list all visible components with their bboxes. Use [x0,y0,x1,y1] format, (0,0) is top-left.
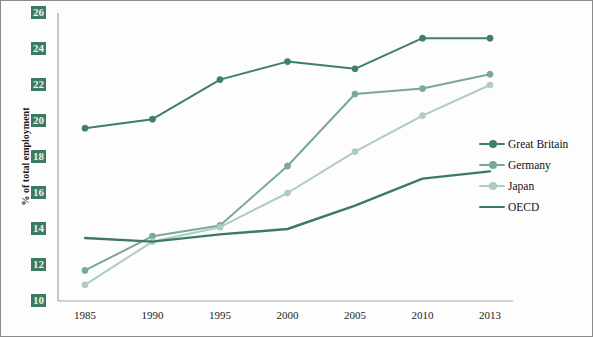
x-tick-1985: 1985 [65,309,105,321]
x-tick-1995: 1995 [200,309,240,321]
x-tick-2005: 2005 [335,309,375,321]
y-tick-10: 10 [31,294,46,307]
y-tick-16: 16 [31,186,46,199]
plot-area: % of total employment 101214161820222426… [1,1,593,337]
series-germany [82,71,493,273]
legend-label: Great Britain [508,138,568,150]
legend-swatch-icon [479,180,505,192]
x-tick-2000: 2000 [268,309,308,321]
legend-swatch-icon [479,201,505,213]
chart-legend: Great BritainGermanyJapanOECD [479,133,591,217]
legend-swatch-icon [479,159,505,171]
y-tick-18: 18 [31,150,46,163]
legend-label: Japan [508,180,534,192]
series-oecd [85,171,490,241]
y-tick-12: 12 [31,258,46,271]
y-tick-20: 20 [31,114,46,127]
y-tick-26: 26 [31,6,46,19]
legend-item-japan[interactable]: Japan [479,175,591,196]
legend-item-germany[interactable]: Germany [479,154,591,175]
legend-item-great-britain[interactable]: Great Britain [479,133,591,154]
y-tick-22: 22 [31,78,46,91]
series-japan [82,82,493,288]
legend-swatch-icon [479,138,505,150]
legend-label: Germany [508,159,551,171]
legend-item-oecd[interactable]: OECD [479,196,591,217]
x-tick-1990: 1990 [133,309,173,321]
x-tick-2013: 2013 [470,309,510,321]
y-tick-24: 24 [31,42,46,55]
chart-frame: % of total employment 101214161820222426… [0,0,593,337]
y-tick-14: 14 [31,222,46,235]
series-great-britain [82,35,493,131]
legend-label: OECD [508,201,539,213]
x-tick-2010: 2010 [403,309,443,321]
